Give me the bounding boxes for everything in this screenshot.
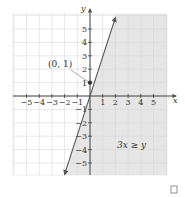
x-tick-label: 5 bbox=[151, 98, 156, 107]
inequality-graph: xy −5−4−3−2−112345−5−4−3−2−112345 (0, 1)… bbox=[0, 0, 185, 197]
x-tick-label: −3 bbox=[46, 98, 58, 107]
y-tick-label: −4 bbox=[75, 146, 87, 155]
x-axis-label: x bbox=[173, 96, 178, 105]
x-tick-label: 1 bbox=[100, 98, 105, 107]
y-tick-label: 3 bbox=[82, 52, 87, 61]
x-tick-label: −2 bbox=[59, 98, 71, 107]
y-tick-label: 1 bbox=[82, 79, 87, 88]
y-tick-label: 5 bbox=[82, 25, 87, 34]
x-tick-label: 3 bbox=[126, 98, 131, 107]
test-point-label: (0, 1) bbox=[48, 59, 72, 69]
y-tick-label: 2 bbox=[82, 65, 87, 74]
empty-square-icon[interactable] bbox=[171, 186, 177, 193]
x-tick-label: 2 bbox=[113, 98, 118, 107]
y-tick-label: 4 bbox=[82, 38, 87, 47]
x-tick-label: −5 bbox=[21, 98, 33, 107]
y-tick-label: −5 bbox=[75, 159, 87, 168]
inequality-label: 3x ≥ y bbox=[117, 140, 147, 150]
test-point bbox=[88, 80, 92, 84]
y-axis-label: y bbox=[80, 4, 86, 13]
x-tick-label: −4 bbox=[33, 98, 45, 107]
x-tick-label: 4 bbox=[138, 98, 143, 107]
